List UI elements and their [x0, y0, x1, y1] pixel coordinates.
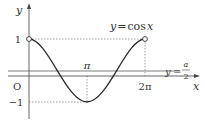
- fraction-denominator: 2: [183, 72, 188, 81]
- y-axis-label: y: [15, 4, 23, 17]
- curve-label: y=cosx: [109, 20, 154, 33]
- open-point-end: [143, 37, 148, 42]
- svg-text:y: y: [164, 66, 171, 77]
- open-point-start: [27, 37, 32, 42]
- tick-label-minus-1: −1: [9, 97, 24, 108]
- y-axis-arrow-icon: [27, 3, 31, 9]
- tick-label-pi: π: [83, 60, 91, 71]
- cosine-graph: y x O 1 −1 π 2π y=cosx y = a 2: [0, 0, 205, 123]
- svg-text:=: =: [173, 66, 181, 77]
- fraction-numerator: a: [184, 60, 189, 69]
- x-axis-label: x: [193, 80, 200, 93]
- line-label: y = a 2: [164, 60, 190, 81]
- tick-label-2pi: 2π: [139, 81, 152, 92]
- x-axis-arrow-icon: [194, 74, 200, 78]
- tick-label-1: 1: [15, 34, 21, 45]
- origin-label: O: [13, 81, 21, 92]
